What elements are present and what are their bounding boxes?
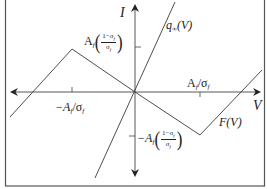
frac-numerator: 1−σ (162, 129, 173, 137)
frac-numerator: 1−σ (102, 32, 113, 40)
frac-numerator-sub: f (173, 133, 174, 138)
diagram-canvas (0, 0, 267, 189)
tick-label-y-neg: −Af(1−σfσf) (137, 130, 182, 149)
f-curve-label: F(V) (219, 116, 242, 128)
tick-label-x-pos-prefix: A (187, 76, 196, 90)
tick-label-y-pos: Af(1−σfσf) (84, 33, 123, 52)
q-inf-label: q∞(V) (166, 19, 192, 33)
left-paren: ( (95, 32, 101, 53)
tick-label-x-pos-sub2: f (207, 83, 209, 91)
right-paren: ) (177, 129, 183, 150)
right-paren: ) (117, 32, 123, 53)
i-axis-label: I (120, 6, 125, 20)
frac-numerator-sub: f (114, 36, 115, 41)
frac-denominator-sub: f (170, 144, 171, 149)
tick-label-y-pos-frac: 1−σfσf (101, 33, 116, 52)
tick-label-x-pos-slash: /σ (198, 76, 208, 90)
v-axis-label: V (253, 99, 262, 113)
tick-label-x-pos: Af/σf (187, 77, 209, 91)
diagram-frame: I V q∞(V) F(V) −Af/σf Af/σf Af(1−σfσf) −… (0, 0, 267, 189)
tick-label-x-neg-slash: /σ (72, 100, 82, 114)
tick-label-y-pos-prefix: A (84, 34, 93, 48)
tick-label-y-neg-prefix: −A (137, 131, 152, 145)
left-paren: ( (154, 129, 160, 150)
tick-label-x-neg-sub2: f (82, 107, 84, 115)
tick-label-y-neg-frac: 1−σfσf (161, 130, 176, 149)
frac-denominator-sub: f (110, 47, 111, 52)
tick-label-x-neg-prefix: −A (55, 100, 70, 114)
tick-label-x-neg: −Af/σf (55, 101, 84, 115)
q-inf-label-arg: (V) (177, 18, 192, 32)
